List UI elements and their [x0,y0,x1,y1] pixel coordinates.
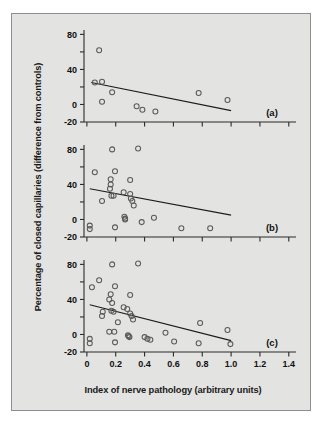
data-point [100,199,105,204]
data-point [113,169,118,174]
y-tick-label: 0 [72,215,77,225]
data-point [128,293,133,298]
data-point [139,220,144,225]
data-point [110,300,115,305]
subplot-c: -200408000.20.40.60.81.01.21.4(c) [58,258,298,370]
y-tick-label: 40 [67,65,77,75]
data-point [100,79,105,84]
data-point [196,341,201,346]
x-tick-label: 1.0 [225,359,238,369]
data-point [228,342,233,347]
data-point [134,104,139,109]
data-point [196,91,201,96]
data-point [179,226,184,231]
regression-line [91,83,231,111]
x-tick-label: 1.2 [254,359,267,369]
data-point [225,98,230,103]
x-tick-label: 0.4 [138,359,151,369]
x-tick-label: 0.6 [167,359,180,369]
y-tick-label: 0 [72,330,77,340]
y-tick-label: -20 [64,117,77,127]
regression-line [90,305,231,341]
y-tick-label: 80 [67,260,77,270]
x-tick-label: 0.8 [196,359,209,369]
data-point [198,321,203,326]
x-axis-label: Index of nerve pathology (arbitrary unit… [42,385,304,395]
y-tick-label: -20 [64,347,77,357]
subplot-a: -2004080(a) [58,28,298,140]
data-point [136,261,141,266]
data-point [151,215,156,220]
data-point [163,330,168,335]
data-point [112,329,117,334]
subplot-b: -2004080(b) [58,143,298,255]
data-point [97,278,102,283]
data-point [113,340,118,345]
data-point [100,99,105,104]
y-tick-label: 80 [67,30,77,40]
data-point [115,320,120,325]
y-tick-label: 80 [67,145,77,155]
data-point [107,329,112,334]
x-tick-label: 0.2 [109,359,122,369]
panel-tag: (b) [266,222,278,233]
regression-line [90,189,231,215]
data-point [110,147,115,152]
data-point [113,225,118,230]
data-point [128,178,133,183]
figure-panel: Percentage of closed capillaries (differ… [11,13,311,411]
data-point [153,109,158,114]
x-tick-label: 0 [84,359,89,369]
data-point [208,226,213,231]
data-point [110,90,115,95]
data-point [113,284,118,289]
data-point [140,107,145,112]
data-point [108,177,113,182]
data-point [87,227,92,232]
data-point [121,190,126,195]
data-point [225,328,230,333]
data-point [172,339,177,344]
data-point [136,146,141,151]
subplot-a-svg: -2004080(a) [58,28,298,140]
x-tick-label: 1.4 [283,359,296,369]
y-tick-label: 40 [67,180,77,190]
data-point [89,285,94,290]
data-point [110,262,115,267]
y-tick-label: -20 [64,232,77,242]
panel-tag: (a) [266,107,278,118]
y-axis-label: Percentage of closed capillaries (differ… [33,22,43,352]
data-point [97,48,102,53]
subplot-c-svg: -200408000.20.40.60.81.01.21.4(c) [58,258,298,370]
data-point [92,170,97,175]
y-tick-label: 0 [72,100,77,110]
y-tick-label: 40 [67,295,77,305]
data-point [108,292,113,297]
subplot-b-svg: -2004080(b) [58,143,298,255]
panel-tag: (c) [266,337,278,348]
